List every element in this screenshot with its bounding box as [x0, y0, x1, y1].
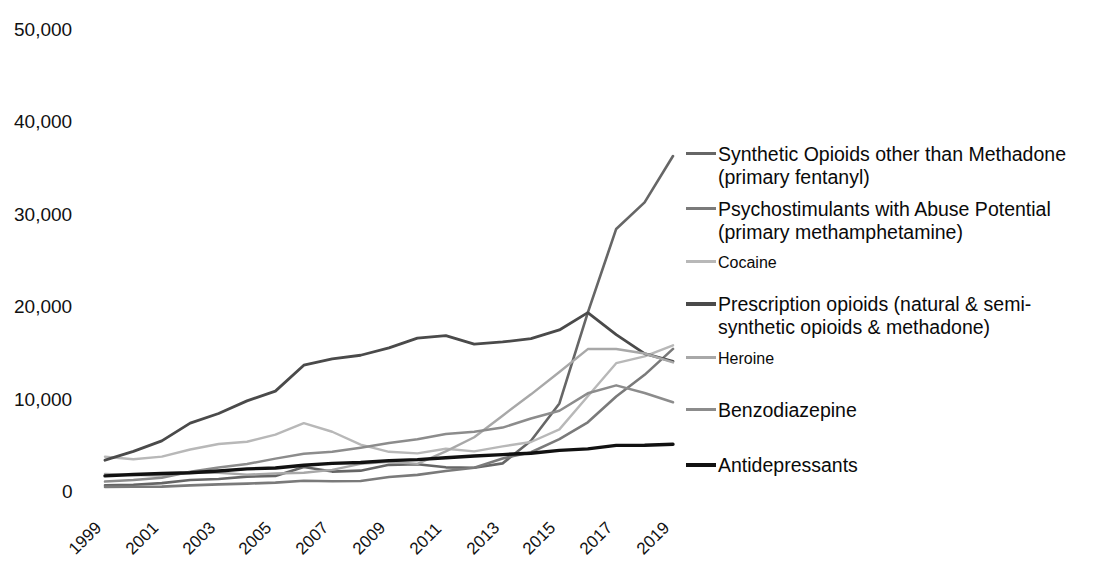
x-axis-tick-label: 2015	[519, 518, 560, 559]
legend-entry: Psychostimulants with Abuse Potential (p…	[686, 198, 1051, 243]
y-axis-tick-label: 30,000	[14, 204, 72, 226]
x-axis-tick-label: 2005	[235, 518, 276, 559]
y-axis-tick-label: 10,000	[14, 389, 72, 411]
x-axis-tick-label: 2011	[406, 519, 446, 559]
legend-label: Prescription opioids (natural & semi- sy…	[718, 293, 1031, 338]
legend-color-swatch	[686, 463, 716, 467]
series-line	[105, 156, 673, 485]
y-axis-tick-label: 50,000	[14, 19, 72, 41]
legend-entry: Heroine	[686, 349, 774, 368]
legend-color-swatch	[686, 260, 716, 263]
legend-entry: Prescription opioids (natural & semi- sy…	[686, 293, 1031, 338]
series-line	[105, 313, 673, 461]
series-line	[105, 349, 673, 476]
x-axis-tick-label: 2017	[576, 518, 617, 559]
legend-entry: Antidepressants	[686, 454, 858, 477]
series-line	[105, 345, 673, 459]
x-axis-tick-label: 1999	[65, 518, 106, 559]
y-axis-tick-label: 0	[62, 481, 73, 503]
series-line	[105, 385, 673, 481]
legend-color-swatch	[686, 152, 716, 155]
line-chart: 010,00020,00030,00040,00050,000 19992001…	[0, 0, 1093, 567]
legend-label: Psychostimulants with Abuse Potential (p…	[718, 198, 1051, 243]
legend-label: Synthetic Opioids other than Methadone (…	[718, 143, 1066, 188]
legend-label: Antidepressants	[718, 454, 858, 477]
x-axis-tick-label: 2009	[349, 518, 390, 559]
legend-label: Heroine	[718, 349, 774, 368]
x-axis-tick-label: 2019	[633, 518, 674, 559]
legend-color-swatch	[686, 207, 716, 210]
series-line	[105, 349, 673, 487]
legend-color-swatch	[686, 408, 716, 411]
legend-entry: Benzodiazepine	[686, 399, 857, 422]
x-axis-tick-label: 2007	[292, 518, 333, 559]
y-axis-tick-label: 20,000	[14, 296, 72, 318]
legend-label: Benzodiazepine	[718, 399, 857, 422]
plot-area	[0, 0, 1093, 567]
y-axis-tick-label: 40,000	[14, 111, 72, 133]
series-line	[105, 444, 673, 476]
legend-entry: Cocaine	[686, 253, 777, 272]
legend-color-swatch	[686, 356, 716, 359]
legend-entry: Synthetic Opioids other than Methadone (…	[686, 143, 1066, 188]
x-axis-tick-label: 2013	[463, 518, 504, 559]
x-axis-tick-label: 2003	[179, 518, 220, 559]
legend-label: Cocaine	[718, 253, 777, 272]
x-axis-tick-label: 2001	[122, 518, 163, 559]
legend-color-swatch	[686, 302, 716, 306]
